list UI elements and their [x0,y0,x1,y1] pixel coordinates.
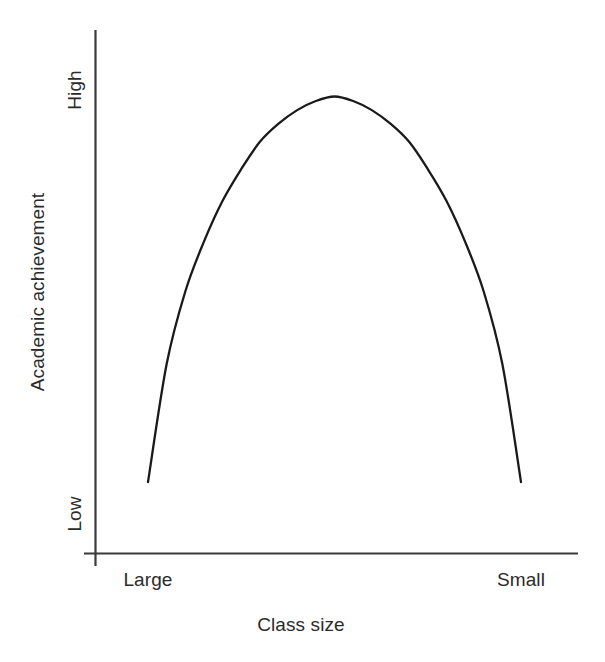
x-tick-label-small: Small [461,570,581,589]
y-tick-label-high: High [65,60,87,120]
y-axis-title: Academic achievement [28,177,52,407]
x-axis-title: Class size [216,615,386,634]
y-tick-label-low: Low [65,484,87,544]
chart-plot-area [0,0,605,662]
x-tick-label-large: Large [88,570,208,589]
achievement-curve [148,97,521,483]
chart-figure: High Low Academic achievement Large Smal… [0,0,605,662]
